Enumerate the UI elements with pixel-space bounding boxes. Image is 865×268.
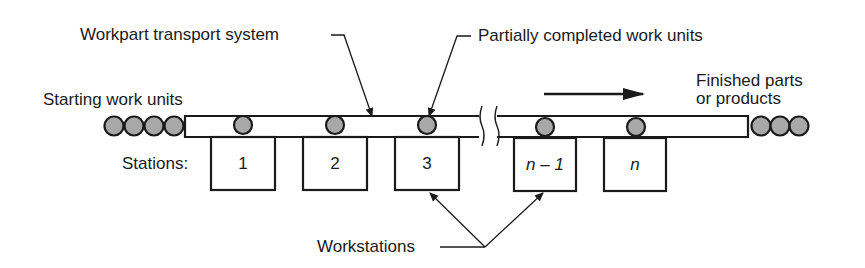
transport-system-label: Workpart transport system xyxy=(80,26,279,44)
workstations-label: Workstations xyxy=(317,238,415,256)
stations-label: Stations: xyxy=(122,155,188,173)
transport-system-leader xyxy=(331,35,372,116)
station-label-2: 2 xyxy=(303,154,367,174)
finished-parts-label-line1: Finished parts xyxy=(696,72,803,90)
station-label-3: 3 xyxy=(395,154,459,174)
station-label-n-1: n – 1 xyxy=(514,155,576,175)
partial-work-units xyxy=(234,116,645,136)
workstations-arrow-3 xyxy=(430,193,485,247)
finished-parts xyxy=(752,117,809,136)
partial-units-leader xyxy=(429,36,471,116)
finished-parts-label-line2: or products xyxy=(696,90,781,108)
starting-work-units xyxy=(105,117,184,136)
station-label-n: n xyxy=(604,155,666,175)
station-label-1: 1 xyxy=(211,154,275,174)
starting-units-label: Starting work units xyxy=(43,91,183,109)
workstations-arrow-n-1 xyxy=(485,193,543,247)
partial-units-label: Partially completed work units xyxy=(478,27,703,45)
